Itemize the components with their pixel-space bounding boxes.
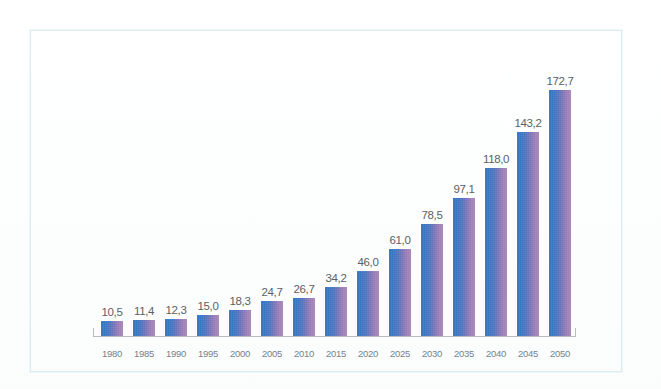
bar[interactable] [229, 310, 251, 336]
bar-column[interactable]: 15,0 1995 [192, 0, 224, 389]
bar[interactable] [485, 168, 507, 336]
bar-column[interactable]: 10,5 1980 [96, 0, 128, 389]
bar[interactable] [165, 319, 187, 336]
axis-tick-left [93, 328, 94, 337]
bar[interactable] [197, 315, 219, 336]
bar-column[interactable]: 61,0 2025 [384, 0, 416, 389]
chart-figure: 10,5 1980 11,4 1985 12,3 1990 15,0 1995 … [0, 0, 661, 389]
bar[interactable] [101, 321, 123, 336]
bar[interactable] [453, 198, 475, 336]
bar-column[interactable]: 26,7 2010 [288, 0, 320, 389]
bar[interactable] [421, 224, 443, 336]
bar-column[interactable]: 11,4 1985 [128, 0, 160, 389]
bar-column[interactable]: 172,7 2050 [544, 0, 576, 389]
bar-column[interactable]: 118,0 2040 [480, 0, 512, 389]
bar[interactable] [549, 90, 571, 336]
bar[interactable] [293, 298, 315, 336]
bar-column[interactable]: 143,2 2045 [512, 0, 544, 389]
bar-column[interactable]: 24,7 2005 [256, 0, 288, 389]
bar-column[interactable]: 97,1 2035 [448, 0, 480, 389]
bar-column[interactable]: 34,2 2015 [320, 0, 352, 389]
bar[interactable] [357, 271, 379, 336]
bar-value-label: 172,7 [535, 75, 585, 87]
plot-area: 10,5 1980 11,4 1985 12,3 1990 15,0 1995 … [0, 0, 661, 389]
bar[interactable] [325, 287, 347, 336]
bar[interactable] [133, 320, 155, 336]
bar-column[interactable]: 18,3 2000 [224, 0, 256, 389]
bar-column[interactable]: 46,0 2020 [352, 0, 384, 389]
bar[interactable] [389, 249, 411, 336]
bar[interactable] [517, 132, 539, 336]
bar[interactable] [261, 301, 283, 336]
bar-column[interactable]: 12,3 1990 [160, 0, 192, 389]
bar-category-label: 2050 [540, 348, 580, 359]
